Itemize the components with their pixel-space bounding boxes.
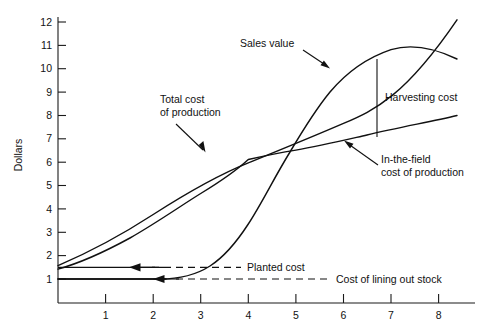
y-tick-label-6: 6 bbox=[46, 156, 52, 168]
y-tick-label-7: 7 bbox=[46, 132, 52, 144]
y-tick-label-11: 11 bbox=[41, 39, 52, 51]
annotation-cost-of-lining-out-stock: Cost of lining out stock bbox=[153, 273, 442, 285]
annotation-total-cost-line2: of production bbox=[160, 106, 221, 118]
y-axis-ticks bbox=[58, 22, 66, 279]
arrowhead-icon bbox=[321, 61, 331, 69]
x-axis-tick-labels: 1 2 3 4 5 6 7 8 bbox=[103, 309, 442, 321]
annotation-in-the-field-line2: cost of production bbox=[381, 166, 464, 178]
y-tick-label-8: 8 bbox=[46, 109, 52, 121]
arrowhead-icon bbox=[153, 275, 165, 283]
chart-plot-area: 12 11 10 9 8 7 6 5 4 3 2 1 Dollars bbox=[0, 0, 483, 332]
annotation-in-the-field-cost-of-production: In-the-field cost of production bbox=[344, 141, 464, 179]
arrowhead-icon bbox=[129, 263, 141, 271]
x-tick-label-2: 2 bbox=[150, 309, 156, 321]
y-tick-label-2: 2 bbox=[46, 249, 52, 261]
x-axis-ticks bbox=[106, 294, 439, 303]
annotation-in-the-field-line1: In-the-field bbox=[381, 153, 431, 165]
y-axis: 12 11 10 9 8 7 6 5 4 3 2 1 Dollars bbox=[12, 16, 66, 303]
annotation-planted-cost-label: Planted cost bbox=[247, 261, 305, 273]
chart-figure: 12 11 10 9 8 7 6 5 4 3 2 1 Dollars bbox=[0, 0, 483, 332]
y-tick-label-9: 9 bbox=[46, 86, 52, 98]
y-tick-label-12: 12 bbox=[40, 16, 52, 28]
series-in-the-field-cost-of-production bbox=[58, 116, 457, 270]
y-tick-label-4: 4 bbox=[46, 203, 52, 215]
y-tick-label-10: 10 bbox=[40, 62, 52, 74]
x-tick-label-3: 3 bbox=[198, 309, 204, 321]
x-tick-label-6: 6 bbox=[341, 309, 347, 321]
y-axis-tick-labels: 12 11 10 9 8 7 6 5 4 3 2 1 bbox=[40, 16, 52, 285]
annotation-sales-value: Sales value bbox=[240, 37, 330, 69]
series-total-cost-of-production bbox=[58, 20, 457, 266]
x-tick-label-4: 4 bbox=[245, 309, 251, 321]
y-tick-label-3: 3 bbox=[46, 226, 52, 238]
annotation-planted-cost: Planted cost bbox=[129, 261, 305, 273]
arrowhead-icon bbox=[344, 141, 354, 149]
x-tick-label-5: 5 bbox=[293, 309, 299, 321]
y-tick-label-1: 1 bbox=[46, 273, 52, 285]
x-tick-label-8: 8 bbox=[436, 309, 442, 321]
annotation-total-cost-line1: Total cost bbox=[160, 93, 204, 105]
annotation-total-cost-of-production: Total cost of production bbox=[160, 93, 221, 153]
x-tick-label-7: 7 bbox=[388, 309, 394, 321]
annotation-cost-of-lining-out-stock-label: Cost of lining out stock bbox=[336, 273, 442, 285]
x-axis: 1 2 3 4 5 6 7 8 bbox=[58, 294, 475, 321]
annotation-harvesting-cost-label: Harvesting cost bbox=[385, 91, 457, 103]
annotation-sales-value-label: Sales value bbox=[240, 37, 294, 49]
x-tick-label-1: 1 bbox=[103, 309, 109, 321]
y-axis-title: Dollars bbox=[12, 139, 24, 172]
y-tick-label-5: 5 bbox=[46, 179, 52, 191]
